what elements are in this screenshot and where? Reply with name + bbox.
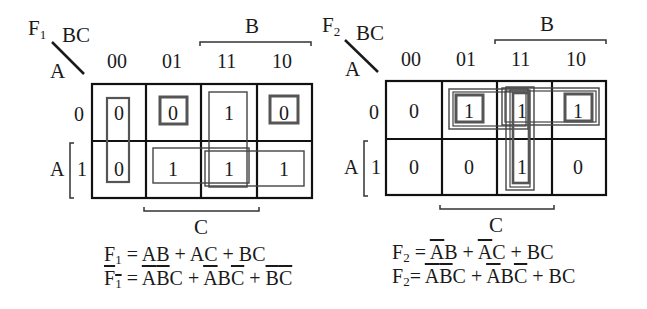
f2-cell-0-00: 0 <box>409 100 419 122</box>
f2-cell-0-10: 1 <box>573 100 583 122</box>
f1-cell-1-00: 0 <box>114 158 124 180</box>
f1-cell-1-01: 1 <box>168 158 178 180</box>
f2-function-label: F2 <box>322 13 340 39</box>
f1-a-bracket <box>70 143 74 198</box>
f1-col-header-11: 11 <box>217 50 236 72</box>
f2-col-vars-label: BC <box>356 21 384 45</box>
f1-group-ab <box>205 151 304 186</box>
kmap-f2: F2 BC A B 00 01 11 10 0 A 1 0 1 1 1 <box>322 12 606 237</box>
f1-cell-0-00: 0 <box>114 102 124 124</box>
f2-row-var-label: A <box>345 57 361 81</box>
f2-a-bracket <box>364 141 368 196</box>
f1-row-header-1: 1 <box>77 158 87 180</box>
f1-col-header-10: 10 <box>272 50 292 72</box>
f1-complement-equation: F1 = ABC + ABC + BC <box>104 267 292 295</box>
kmap-f1: F1 BC A B 00 01 11 10 0 A 1 0 0 <box>28 14 312 239</box>
f1-col-vars-label: BC <box>62 23 90 47</box>
f2-col-header-00: 00 <box>401 48 421 70</box>
f2-expanded-equation: F2= ABC + ABC + BC <box>392 265 575 293</box>
f1-function-label: F1 <box>28 16 46 42</box>
f2-cell-1-00: 0 <box>409 156 419 178</box>
f2-c-bracket <box>440 205 554 209</box>
f2-b-bracket <box>495 40 606 44</box>
f2-col-header-11: 11 <box>511 48 530 70</box>
f2-cell-0-01: 1 <box>464 100 474 122</box>
f2-col-header-10: 10 <box>566 48 586 70</box>
f1-cell-1-10: 1 <box>279 158 289 180</box>
f1-a-label: A <box>50 158 65 180</box>
f2-cell-1-10: 0 <box>573 156 583 178</box>
f1-row-var-label: A <box>50 59 66 83</box>
f1-cell-0-11: 1 <box>224 102 234 124</box>
f1-c-bracket <box>144 207 259 211</box>
f1-row-header-0: 0 <box>74 103 84 125</box>
f2-a-label: A <box>344 156 359 178</box>
f1-cell-0-01: 0 <box>168 102 178 124</box>
f2-col-header-01: 01 <box>456 48 476 70</box>
f1-c-label: C <box>194 215 208 239</box>
f2-row-header-1: 1 <box>371 156 381 178</box>
f1-col-header-01: 01 <box>162 50 182 72</box>
f2-cell-0-11: 1 <box>517 100 527 122</box>
f2-b-label: B <box>540 12 554 36</box>
f1-col-header-00: 00 <box>107 50 127 72</box>
f2-row-header-0: 0 <box>369 101 379 123</box>
f2-c-label: C <box>489 213 503 237</box>
f2-cell-1-11: 1 <box>517 156 527 178</box>
f1-cell-1-11: 1 <box>224 158 234 180</box>
f2-cell-1-01: 0 <box>464 156 474 178</box>
f1-b-label: B <box>245 14 259 38</box>
f1-b-bracket <box>200 42 311 46</box>
f1-cell-0-10: 0 <box>279 102 289 124</box>
